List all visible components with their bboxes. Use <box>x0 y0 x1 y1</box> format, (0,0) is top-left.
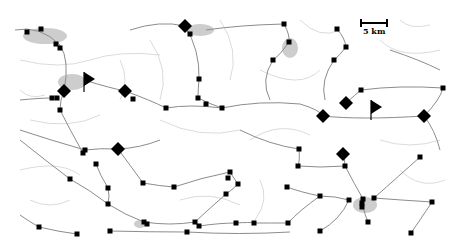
square-marker-icon[interactable] <box>197 77 202 82</box>
square-marker-icon[interactable] <box>282 22 287 27</box>
square-marker-icon[interactable] <box>50 96 55 101</box>
square-marker-icon[interactable] <box>108 229 113 234</box>
square-marker-icon[interactable] <box>366 220 371 225</box>
diamond-markers <box>57 19 431 161</box>
square-marker-icon[interactable] <box>75 232 80 237</box>
square-marker-icon[interactable] <box>185 230 190 235</box>
square-marker-icon[interactable] <box>347 198 352 203</box>
square-marker-icon[interactable] <box>360 205 365 210</box>
square-marker-icon[interactable] <box>297 147 302 152</box>
scale-label: 5 km <box>363 26 385 36</box>
square-marker-icon[interactable] <box>220 106 225 111</box>
square-marker-icon[interactable] <box>81 151 86 156</box>
square-marker-icon[interactable] <box>271 58 276 63</box>
square-marker-icon[interactable] <box>25 30 30 35</box>
square-marker-icon[interactable] <box>58 46 63 51</box>
square-marker-icon[interactable] <box>285 185 290 190</box>
square-marker-icon[interactable] <box>441 86 446 91</box>
square-marker-icon[interactable] <box>409 231 414 236</box>
square-marker-icon[interactable] <box>106 202 111 207</box>
square-marker-icon[interactable] <box>359 88 364 93</box>
square-marker-icon[interactable] <box>37 225 42 230</box>
scale-bar: 5 km <box>360 18 388 36</box>
square-marker-icon[interactable] <box>228 170 233 175</box>
scale-line <box>361 22 387 24</box>
square-marker-icon[interactable] <box>318 229 323 234</box>
main-roads <box>15 24 443 234</box>
square-marker-icon[interactable] <box>39 27 44 32</box>
square-markers <box>25 22 446 237</box>
square-marker-icon[interactable] <box>234 221 239 226</box>
square-marker-icon[interactable] <box>287 40 292 45</box>
diamond-marker-icon <box>336 147 350 161</box>
square-marker-icon[interactable] <box>131 97 136 102</box>
square-marker-icon[interactable] <box>236 182 241 187</box>
square-marker-icon[interactable] <box>145 222 150 227</box>
urban-areas <box>23 24 377 228</box>
square-marker-icon[interactable] <box>418 155 423 160</box>
minor-roads <box>20 20 445 220</box>
square-marker-icon[interactable] <box>106 186 111 191</box>
square-marker-icon[interactable] <box>344 45 349 50</box>
road-network <box>0 0 458 248</box>
diamond-marker-icon <box>111 142 125 156</box>
map-canvas[interactable]: 5 km <box>0 0 458 248</box>
square-marker-icon[interactable] <box>68 177 73 182</box>
square-marker-icon[interactable] <box>55 96 60 101</box>
square-marker-icon[interactable] <box>252 221 257 226</box>
square-marker-icon[interactable] <box>196 96 201 101</box>
square-marker-icon[interactable] <box>318 194 323 199</box>
flag-markers <box>84 72 382 120</box>
scale-tick-right <box>386 19 388 27</box>
square-marker-icon[interactable] <box>141 181 146 186</box>
square-marker-icon[interactable] <box>286 221 291 226</box>
flag-marker-icon <box>371 100 382 120</box>
square-marker-icon[interactable] <box>296 164 301 169</box>
square-marker-icon[interactable] <box>164 106 169 111</box>
square-marker-icon[interactable] <box>335 27 340 32</box>
square-marker-icon[interactable] <box>343 164 348 169</box>
square-marker-icon[interactable] <box>58 108 63 113</box>
square-marker-icon[interactable] <box>226 176 231 181</box>
square-marker-icon[interactable] <box>204 102 209 107</box>
square-marker-icon[interactable] <box>224 192 229 197</box>
square-marker-icon[interactable] <box>372 196 377 201</box>
flag-marker-icon <box>84 72 95 92</box>
square-marker-icon[interactable] <box>172 185 177 190</box>
square-marker-icon[interactable] <box>94 162 99 167</box>
square-marker-icon[interactable] <box>188 32 193 37</box>
square-marker-icon[interactable] <box>430 200 435 205</box>
square-marker-icon[interactable] <box>197 224 202 229</box>
diamond-marker-icon <box>118 84 132 98</box>
square-marker-icon[interactable] <box>332 58 337 63</box>
